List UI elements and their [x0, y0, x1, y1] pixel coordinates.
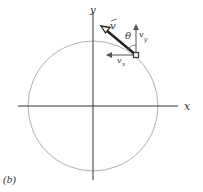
theta-label: θ — [125, 30, 131, 41]
particle-point — [134, 53, 139, 58]
velocity-label-text: v — [110, 20, 116, 31]
vx-label-subscript: x — [122, 60, 126, 67]
x-axis-label: x — [184, 100, 191, 113]
velocity-vector-arrow — [106, 30, 136, 55]
vx-label: v x — [117, 56, 126, 67]
velocity-label: v — [110, 19, 117, 31]
figure-caption: (b) — [3, 173, 16, 185]
diagram-canvas: x y v θ v y v x — [0, 0, 203, 192]
circular-motion-diagram: x y v θ v y v x (b) — [0, 0, 203, 192]
y-axis-label: y — [89, 4, 96, 15]
vy-label-subscript: y — [143, 35, 148, 43]
vy-label: v y — [139, 30, 148, 43]
